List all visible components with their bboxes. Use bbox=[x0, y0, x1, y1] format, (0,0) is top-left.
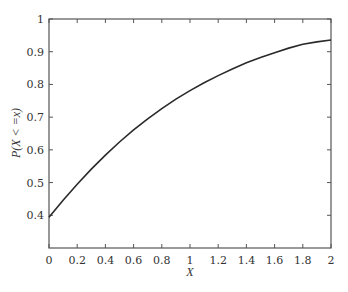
y-tick-labels: 0.40.50.60.70.80.91 bbox=[27, 13, 45, 222]
x-tick-label: 0.8 bbox=[153, 254, 171, 267]
x-tick-label: 0.6 bbox=[125, 254, 143, 267]
x-tick-label: 0.2 bbox=[68, 254, 86, 267]
cdf-curve bbox=[49, 40, 331, 217]
plot-border bbox=[49, 19, 331, 248]
x-tick-label: 1.6 bbox=[266, 254, 284, 267]
y-tick-label: 0.5 bbox=[27, 177, 45, 190]
x-tick-label: 2 bbox=[328, 254, 335, 267]
x-tick-label: 1.8 bbox=[294, 254, 312, 267]
y-tick-label: 0.6 bbox=[27, 144, 45, 157]
plot-frame bbox=[49, 19, 331, 248]
x-tick-label: 1.2 bbox=[209, 254, 227, 267]
x-tick-label: 1.4 bbox=[238, 254, 256, 267]
y-tick-label: 0.8 bbox=[27, 78, 45, 91]
y-tick-label: 0.9 bbox=[27, 46, 45, 59]
x-tick-label: 0.4 bbox=[97, 254, 115, 267]
x-tick-label: 0 bbox=[46, 254, 53, 267]
x-axis-label: X bbox=[185, 265, 194, 279]
y-tick-label: 0.7 bbox=[27, 111, 45, 124]
y-tick-label: 0.4 bbox=[27, 209, 45, 222]
y-tick-label: 1 bbox=[37, 13, 44, 26]
axis-ticks bbox=[49, 19, 331, 248]
y-axis-label: P(X < =x) bbox=[9, 108, 23, 159]
cdf-chart: 00.20.40.60.811.21.41.61.82 0.40.50.60.7… bbox=[0, 0, 348, 292]
